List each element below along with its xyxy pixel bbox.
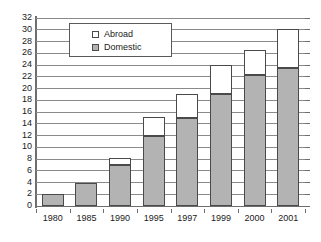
- x-axis-tick-mark: [36, 209, 37, 213]
- x-axis-tick-mark: [137, 209, 138, 213]
- x-axis-tick-mark: [171, 209, 172, 213]
- y-axis-tick-label: 6: [10, 166, 32, 175]
- x-axis-tick-mark: [238, 209, 239, 213]
- y-axis-tick-mark-right: [305, 182, 310, 183]
- legend-label-abroad: Abroad: [104, 29, 133, 39]
- y-axis-tick-label: 10: [10, 142, 32, 151]
- y-axis-tick-mark-right: [305, 76, 310, 77]
- y-axis-tick-label: 22: [10, 72, 32, 81]
- bar-segment-abroad[interactable]: [176, 94, 198, 118]
- bar-segment-abroad[interactable]: [210, 65, 232, 94]
- bar-segment-domestic[interactable]: [176, 118, 198, 206]
- bar-group[interactable]: [277, 18, 299, 206]
- bar-segment-domestic[interactable]: [210, 94, 232, 206]
- y-axis-tick-label: 14: [10, 119, 32, 128]
- y-axis-tick-label: 24: [10, 60, 32, 69]
- y-axis-tick-mark-right: [305, 194, 310, 195]
- bar-segment-domestic[interactable]: [277, 68, 299, 206]
- bar-segment-abroad[interactable]: [244, 50, 266, 75]
- x-axis-tick-mark: [70, 209, 71, 213]
- bar-segment-abroad[interactable]: [277, 29, 299, 68]
- y-axis-tick-label: 26: [10, 48, 32, 57]
- y-axis-tick-label: 8: [10, 154, 32, 163]
- x-axis-labels: 19801985199019951997199920002001: [36, 209, 305, 231]
- y-axis-tick-label: 0: [10, 201, 32, 210]
- y-axis-tick-label: 18: [10, 95, 32, 104]
- y-axis-tick-mark-right: [305, 159, 310, 160]
- bar-chart: 02468101214161820222426283032 1980198519…: [0, 0, 321, 242]
- bar-segment-abroad[interactable]: [143, 117, 165, 136]
- x-axis-tick-mark: [305, 209, 306, 213]
- legend-label-domestic: Domestic: [104, 42, 142, 52]
- chart-legend: Abroad Domestic: [69, 23, 172, 57]
- x-axis-tick-label: 2001: [268, 213, 308, 223]
- y-axis-labels: 02468101214161820222426283032: [8, 18, 32, 206]
- y-axis-tick-label: 20: [10, 84, 32, 93]
- y-axis-tick-mark-right: [305, 135, 310, 136]
- x-axis-tick-mark: [103, 209, 104, 213]
- bar-group[interactable]: [210, 18, 232, 206]
- y-axis-tick-mark-right: [305, 41, 310, 42]
- legend-swatch-abroad-icon: [92, 31, 99, 38]
- legend-item-domestic: Domestic: [92, 41, 171, 53]
- x-axis-tick-mark: [271, 209, 272, 213]
- x-axis-tick-mark: [204, 209, 205, 213]
- y-axis-tick-mark-right: [305, 112, 310, 113]
- y-axis-tick-mark-right: [305, 147, 310, 148]
- y-axis-tick-mark-right: [305, 18, 310, 19]
- bar-group[interactable]: [176, 18, 198, 206]
- legend-item-abroad: Abroad: [92, 28, 171, 40]
- legend-swatch-domestic-icon: [92, 44, 99, 51]
- y-axis-tick-mark-right: [305, 65, 310, 66]
- y-axis-tick-mark-right: [305, 88, 310, 89]
- y-axis-tick-label: 30: [10, 25, 32, 34]
- bar-segment-abroad[interactable]: [109, 158, 131, 164]
- bar-segment-domestic[interactable]: [143, 136, 165, 207]
- bar-group[interactable]: [244, 18, 266, 206]
- y-axis-tick-mark-right: [305, 206, 310, 207]
- bar-segment-domestic[interactable]: [244, 75, 266, 206]
- bar-group[interactable]: [42, 18, 64, 206]
- y-axis-tick-mark-right: [305, 29, 310, 30]
- y-axis-tick-label: 4: [10, 178, 32, 187]
- bar-segment-domestic[interactable]: [109, 165, 131, 206]
- y-axis-tick-label: 28: [10, 37, 32, 46]
- y-axis-tick-label: 12: [10, 131, 32, 140]
- bar-segment-domestic[interactable]: [42, 194, 64, 206]
- y-axis-tick-mark-right: [305, 170, 310, 171]
- y-axis-tick-label: 2: [10, 189, 32, 198]
- y-axis-tick-mark-right: [305, 123, 310, 124]
- y-axis-tick-mark-right: [305, 100, 310, 101]
- y-axis-tick-label: 16: [10, 107, 32, 116]
- y-axis-tick-mark-right: [305, 53, 310, 54]
- bar-segment-domestic[interactable]: [75, 183, 97, 206]
- y-axis-tick-label: 32: [10, 13, 32, 22]
